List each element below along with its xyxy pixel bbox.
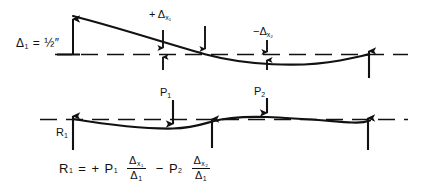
reaction-r1-label: R1 <box>56 126 68 138</box>
lower-panel-group <box>40 98 408 150</box>
dx2-symbol: −Δ <box>253 25 267 37</box>
term1-den-symbol: Δ <box>130 169 138 181</box>
equation-term2-fraction: Δx₂ Δ1 <box>190 155 211 181</box>
term2-den-symbol: Δ <box>195 169 203 181</box>
term2-numerator: Δx₂ <box>190 155 211 168</box>
upper-panel-group <box>55 16 408 78</box>
term1-denominator: Δ1 <box>127 168 145 182</box>
dx2-subscript: x₂ <box>267 31 273 38</box>
equation-lhs-symbol: R <box>59 161 69 176</box>
beam-influence-line-diagram: Δ1 = ½″ + Δx₁ −Δx₂ P1 P2 R1 R1 = + P1 Δx… <box>0 0 421 193</box>
term1-coef-subscript: 1 <box>114 167 118 174</box>
term2-coef-subscript: 2 <box>178 167 182 174</box>
term2-denominator: Δ1 <box>192 168 210 182</box>
equation-term1-sign: + <box>91 161 99 176</box>
dx1-subscript: x₁ <box>165 14 171 21</box>
r1-subscript: 1 <box>64 132 68 139</box>
equation-term2-coefficient: P2 <box>169 161 183 176</box>
r1-symbol: R <box>56 126 64 138</box>
negative-delta-x2-label: −Δx₂ <box>253 25 273 37</box>
term2-coef-symbol: P <box>169 161 178 176</box>
dx1-symbol: + Δ <box>149 8 165 20</box>
term2-num-subscript: x₂ <box>201 160 208 167</box>
delta1-subscript: 1 <box>25 43 29 50</box>
load-p2-label: P2 <box>254 85 265 97</box>
delta1-equals: = <box>33 36 41 50</box>
positive-delta-x1-label: + Δx₁ <box>149 8 171 20</box>
term2-den-subscript: 1 <box>203 175 207 182</box>
load-p1-label: P1 <box>160 86 171 98</box>
term1-num-subscript: x₁ <box>137 160 144 167</box>
term1-num-symbol: Δ <box>129 154 137 166</box>
equation-term2-sign: − <box>156 161 164 176</box>
deflected-shape-curve <box>73 16 369 65</box>
equation-lhs: R1 <box>59 161 73 176</box>
loaded-beam-curve <box>73 117 370 129</box>
term1-den-subscript: 1 <box>138 175 142 182</box>
equation-term1-coefficient: P1 <box>104 161 118 176</box>
p2-subscript: 2 <box>261 91 265 98</box>
equation-lhs-subscript: 1 <box>69 167 73 174</box>
equation-term1-fraction: Δx₁ Δ1 <box>126 155 147 181</box>
term1-coef-symbol: P <box>104 161 113 176</box>
term1-numerator: Δx₁ <box>126 155 147 168</box>
p1-subscript: 1 <box>167 92 171 99</box>
equation-equals: = <box>78 161 86 176</box>
delta1-label: Δ1 = ½″ <box>16 36 59 50</box>
delta1-symbol: Δ <box>16 36 25 50</box>
delta1-value: ½″ <box>44 36 59 50</box>
reaction-equation: R1 = + P1 Δx₁ Δ1 − P2 Δx₂ Δ1 <box>59 155 215 181</box>
